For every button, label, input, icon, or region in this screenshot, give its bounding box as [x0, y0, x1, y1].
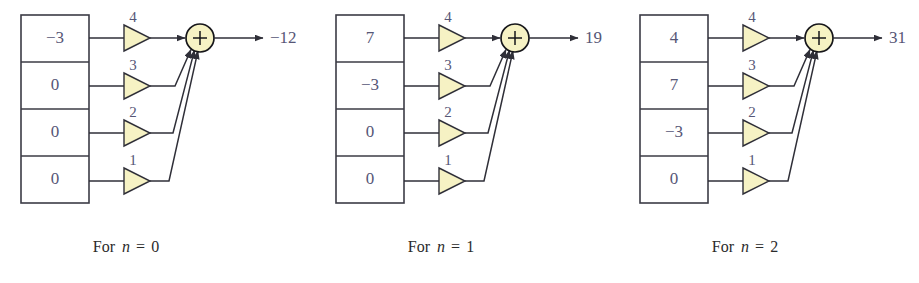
tap-branch-2: 3	[708, 50, 810, 100]
register-cell-value: 0	[366, 122, 375, 141]
register-cell-value: −3	[665, 122, 683, 141]
register-cell-value: 7	[670, 75, 679, 94]
caption-index-value: 1	[466, 238, 474, 255]
gain-amplifier	[439, 25, 465, 51]
panel-caption: Forn=2	[712, 238, 778, 255]
tap-output-wire	[150, 50, 191, 87]
gain-label: 4	[444, 9, 452, 25]
register-cell-value: 0	[366, 169, 375, 188]
register-cell-value: 0	[51, 122, 60, 141]
tap-branch-2: 3	[404, 50, 506, 100]
tap-branch-3: 2	[404, 50, 510, 146]
gain-amplifier	[124, 25, 150, 51]
gain-label: 3	[748, 57, 756, 73]
panel-n-0: −30004321−12Forn=0	[21, 9, 297, 255]
tap-output-wire	[465, 50, 510, 133]
caption-index-value: 2	[770, 238, 778, 255]
gain-amplifier	[124, 168, 150, 194]
caption-equals: =	[136, 238, 145, 255]
summing-node	[186, 24, 214, 52]
tap-output-wire	[150, 50, 195, 133]
tap-branch-1: 4	[89, 9, 185, 51]
gain-amplifier	[743, 168, 769, 194]
gain-amplifier	[743, 25, 769, 51]
gain-label: 4	[748, 9, 756, 25]
gain-label: 2	[748, 104, 756, 120]
gain-label: 3	[129, 57, 137, 73]
shift-register-box: 7−300	[336, 15, 404, 203]
panel-caption: Forn=0	[93, 238, 159, 255]
caption-prefix: For	[712, 238, 735, 255]
panel-n-2: 47−30432131Forn=2	[640, 9, 906, 255]
register-cell-value: 0	[51, 169, 60, 188]
tap-branch-3: 2	[89, 50, 195, 146]
shift-register-box: −3000	[21, 15, 89, 203]
gain-label: 2	[129, 104, 137, 120]
gain-label: 2	[444, 104, 452, 120]
shift-register-box: 47−30	[640, 15, 708, 203]
caption-prefix: For	[408, 238, 431, 255]
fir-filter-diagram: −30004321−12Forn=07−300432119Forn=147−30…	[0, 0, 919, 283]
tap-branch-1: 4	[404, 9, 500, 51]
gain-amplifier	[439, 120, 465, 146]
tap-output-wire	[465, 51, 513, 181]
caption-variable: n	[437, 238, 445, 255]
tap-output-wire	[769, 50, 810, 87]
gain-amplifier	[124, 73, 150, 99]
panels-group: −30004321−12Forn=07−300432119Forn=147−30…	[21, 9, 906, 255]
gain-label: 1	[748, 152, 756, 168]
caption-variable: n	[741, 238, 749, 255]
output-value-label: 31	[889, 28, 906, 47]
caption-equals: =	[451, 238, 460, 255]
tap-branch-3: 2	[708, 50, 814, 146]
caption-prefix: For	[93, 238, 116, 255]
tap-branch-2: 3	[89, 50, 191, 100]
gain-label: 3	[444, 57, 452, 73]
output-value-label: −12	[270, 28, 297, 47]
panel-caption: Forn=1	[408, 238, 474, 255]
caption-variable: n	[122, 238, 130, 255]
register-cell-value: 0	[51, 75, 60, 94]
panel-n-1: 7−300432119Forn=1	[336, 9, 602, 255]
output-value-label: 19	[585, 28, 602, 47]
tap-output-wire	[769, 50, 814, 133]
figure-root: −30004321−12Forn=07−300432119Forn=147−30…	[0, 0, 919, 283]
gain-label: 1	[444, 152, 452, 168]
summing-node	[805, 24, 833, 52]
caption-equals: =	[755, 238, 764, 255]
gain-amplifier	[743, 120, 769, 146]
gain-amplifier	[124, 120, 150, 146]
register-cell-value: −3	[46, 28, 64, 47]
gain-amplifier	[439, 73, 465, 99]
register-cell-value: 4	[670, 28, 679, 47]
summing-node	[501, 24, 529, 52]
tap-output-wire	[150, 51, 198, 181]
gain-amplifier	[439, 168, 465, 194]
register-cell-value: 0	[670, 169, 679, 188]
register-cell-value: −3	[361, 75, 379, 94]
gain-label: 1	[129, 152, 137, 168]
tap-branch-1: 4	[708, 9, 804, 51]
tap-output-wire	[465, 50, 506, 87]
tap-output-wire	[769, 51, 817, 181]
gain-amplifier	[743, 73, 769, 99]
caption-index-value: 0	[151, 238, 159, 255]
gain-label: 4	[129, 9, 137, 25]
register-cell-value: 7	[366, 28, 375, 47]
